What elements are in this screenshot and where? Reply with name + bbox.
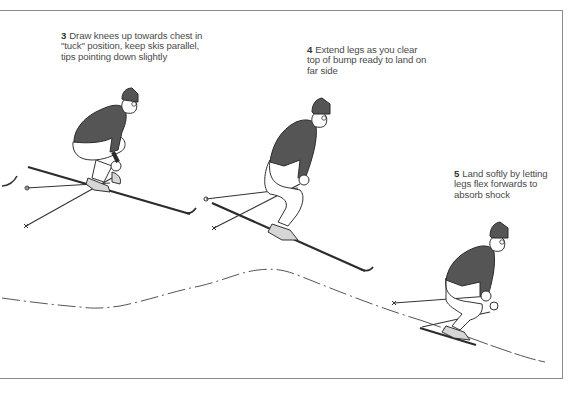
step-3-number: 3 <box>61 30 66 41</box>
step-3-text: Draw knees up towards chest in "tuck" po… <box>61 30 202 62</box>
skier-step-3 <box>24 88 196 228</box>
skier-step-4 <box>204 98 373 271</box>
partial-ski-icon <box>2 176 17 186</box>
step-5-caption: 5Land softly by letting legs flex forwar… <box>454 169 566 200</box>
step-4-text: Extend legs as you clear top of bump rea… <box>307 44 426 76</box>
step-5-text: Land softly by letting legs flex forward… <box>454 168 548 200</box>
step-3-caption: 3Draw knees up towards chest in "tuck" p… <box>61 31 211 62</box>
step-4-number: 4 <box>307 44 312 55</box>
skier-step-5 <box>392 222 508 345</box>
step-5-number: 5 <box>454 168 459 179</box>
step-4-caption: 4Extend legs as you clear top of bump re… <box>307 45 427 76</box>
